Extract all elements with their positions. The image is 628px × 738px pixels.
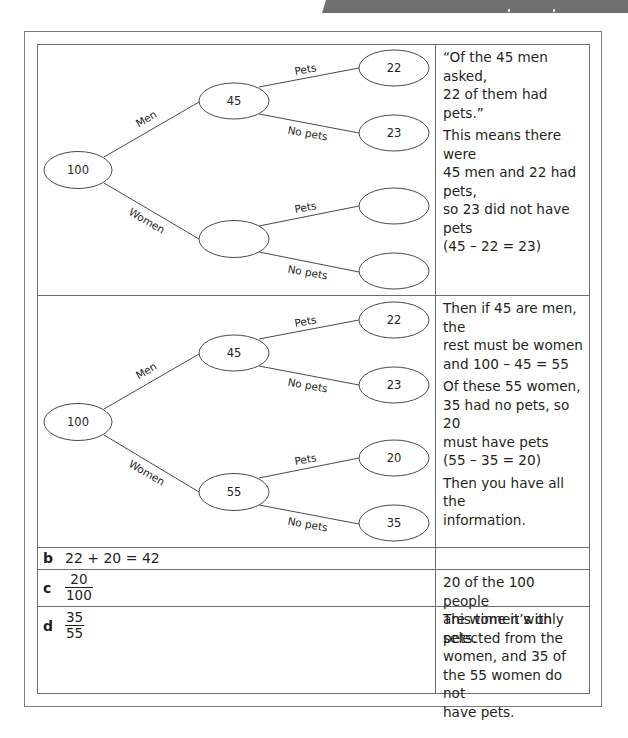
node-value-women-no-pets: 35 [387, 516, 402, 530]
branch-label-women: Women [127, 205, 167, 235]
branch-label-no-pets-bottom: No pets [287, 263, 329, 282]
node-value-men-pets: 22 [387, 313, 402, 327]
fraction-numerator: 20 [65, 572, 93, 587]
tree-diagram-cell: 100 45 55 22 23 20 35 Men Women Pets No … [38, 296, 436, 547]
solution-table: 100 45 22 23 Men Women Pets No pets Pets… [37, 44, 590, 694]
explanation-cell: 20 of the 100 people are women with pets… [436, 570, 589, 606]
fraction: 20 100 [65, 572, 93, 603]
node-value-men: 45 [227, 346, 242, 360]
branch-label-men: Men [133, 360, 158, 381]
node-value-root: 100 [67, 163, 89, 177]
explanation-cell: This time it’s only selected from the wo… [436, 607, 589, 693]
fraction: 35 55 [65, 610, 84, 641]
explanation-cell: Then if 45 are men, the rest must be wom… [436, 296, 589, 547]
section-header-banner [0, 0, 628, 14]
table-row-part-d: d 35 55 This time it’s only selected fro… [38, 607, 589, 693]
branch-label-pets-bottom: Pets [293, 451, 317, 467]
table-row-tree-complete: 100 45 55 22 23 20 35 Men Women Pets No … [38, 296, 589, 548]
branch-line-women [104, 435, 199, 492]
branch-label-men: Men [133, 108, 158, 129]
part-letter: d [43, 618, 53, 634]
answer-cell: d 35 55 [38, 607, 436, 693]
tree-diagram-cell: 100 45 22 23 Men Women Pets No pets Pets… [38, 45, 436, 295]
node-value-root: 100 [67, 415, 89, 429]
node-women-pets [359, 188, 429, 224]
fraction-numerator: 35 [65, 610, 84, 625]
node-value-men-no-pets: 23 [387, 126, 402, 140]
explanation-paragraph: This means there were 45 men and 22 had … [443, 126, 585, 256]
table-row-part-b: b 22 + 20 = 42 [38, 548, 589, 570]
part-letter: c [43, 580, 51, 596]
node-women-no-pets [359, 253, 429, 289]
branch-label-pets-top: Pets [293, 61, 317, 77]
explanation-paragraph: Then if 45 are men, the rest must be wom… [443, 299, 585, 373]
branch-label-pets-top: Pets [293, 313, 317, 329]
node-value-women: 55 [227, 485, 242, 499]
fraction-denominator: 100 [65, 587, 93, 603]
node-value-men-no-pets: 23 [387, 378, 402, 392]
node-value-men-pets: 22 [387, 61, 402, 75]
node-value-men: 45 [227, 94, 242, 108]
explanation-paragraph: Then you have all the information. [443, 474, 585, 530]
answer-cell: b 22 + 20 = 42 [38, 548, 436, 569]
answer-cell: c 20 100 [38, 570, 436, 606]
table-row-tree-partial: 100 45 22 23 Men Women Pets No pets Pets… [38, 45, 589, 296]
tree-diagram-complete: 100 45 55 22 23 20 35 Men Women Pets No … [38, 296, 436, 547]
node-value-women-pets: 20 [387, 451, 402, 465]
tree-diagram-partial: 100 45 22 23 Men Women Pets No pets Pets… [38, 45, 436, 295]
clipped-heading-glyph [508, 9, 510, 12]
explanation-paragraph: Of these 55 women, 35 had no pets, so 20… [443, 377, 585, 470]
table-row-part-c: c 20 100 20 of the 100 people are women … [38, 570, 589, 607]
explanation-cell: “Of the 45 men asked, 22 of them had pet… [436, 45, 589, 295]
part-letter: b [43, 550, 53, 566]
branch-line-women [104, 183, 199, 239]
clipped-heading-glyph [553, 9, 555, 12]
branch-label-pets-bottom: Pets [293, 199, 317, 215]
part-answer: 22 + 20 = 42 [65, 550, 160, 566]
explanation-paragraph: “Of the 45 men asked, 22 of them had pet… [443, 48, 585, 122]
explanation-paragraph: This time it’s only selected from the wo… [443, 610, 585, 721]
fraction-denominator: 55 [65, 625, 84, 641]
branch-label-women: Women [127, 457, 167, 487]
node-women [199, 221, 269, 258]
explanation-cell [436, 548, 589, 569]
